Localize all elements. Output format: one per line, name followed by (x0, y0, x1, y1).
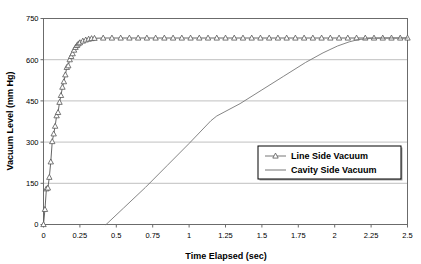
legend-label: Cavity Side Vacuum (291, 165, 377, 175)
x-tick-label: 1.25 (218, 231, 233, 240)
legend-label: Line Side Vacuum (291, 151, 368, 161)
x-tick-label: 0.5 (111, 231, 121, 240)
y-tick-label: 0 (34, 220, 38, 229)
x-tick-label: 1.5 (257, 231, 267, 240)
y-axis-title: Vacuum Level (mm Hg) (5, 71, 15, 170)
y-tick-label: 750 (26, 14, 39, 23)
x-tick-label: 2 (333, 231, 337, 240)
x-tick-label: 2.25 (364, 231, 379, 240)
x-axis-title: Time Elapsed (sec) (185, 251, 266, 261)
vacuum-level-chart: 0150300450600750 00.250.50.7511.251.51.7… (0, 0, 421, 264)
y-tick-label: 150 (26, 179, 39, 188)
x-tick-label: 0.25 (73, 231, 88, 240)
chart-legend[interactable]: Line Side VacuumCavity Side Vacuum (258, 146, 403, 181)
x-tick-label: 1 (187, 231, 191, 240)
x-tick-label: 2.5 (402, 231, 412, 240)
chart-canvas: 0150300450600750 00.250.50.7511.251.51.7… (0, 0, 421, 264)
y-tick-label: 300 (26, 138, 39, 147)
x-tick-label: 1.75 (291, 231, 306, 240)
y-tick-label: 450 (26, 97, 39, 106)
x-tick-label: 0 (41, 231, 45, 240)
y-tick-label: 600 (26, 56, 39, 65)
x-tick-label: 0.75 (145, 231, 160, 240)
